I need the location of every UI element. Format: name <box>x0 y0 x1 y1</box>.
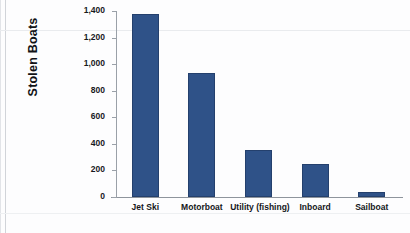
bar <box>245 150 272 197</box>
x-axis-line <box>111 197 403 198</box>
plot-area: 02004006008001,0001,2001,400 Jet SkiMoto… <box>117 11 400 197</box>
bar-group: Jet Ski <box>117 11 174 197</box>
y-tick: 0 <box>112 197 117 198</box>
x-axis-category-label: Jet Ski <box>117 202 174 212</box>
bar <box>302 164 329 197</box>
bar-group: Sailboat <box>343 11 400 197</box>
x-axis-category-label: Inboard <box>287 202 344 212</box>
x-axis-category-label: Motorboat <box>174 202 231 212</box>
bar <box>188 73 215 197</box>
x-axis-category-label: Utility (fishing) <box>230 202 287 212</box>
y-axis-title: Stolen Boats <box>26 0 40 142</box>
bar <box>132 14 159 197</box>
x-axis-category-label: Sailboat <box>343 202 400 212</box>
y-tick-label: 600 <box>91 111 105 121</box>
y-tick-label: 1,200 <box>84 32 105 42</box>
bar-series: Jet SkiMotorboatUtility (fishing)Inboard… <box>117 11 400 197</box>
bar-group: Utility (fishing) <box>230 11 287 197</box>
bar-chart-figure: Stolen Boats 02004006008001,0001,2001,40… <box>0 0 410 233</box>
bar-group: Motorboat <box>174 11 231 197</box>
scan-artifact-vertical-line <box>5 0 6 233</box>
scan-artifact-horizontal-line-bottom <box>0 213 410 214</box>
y-tick-label: 400 <box>91 138 105 148</box>
y-tick-label: 800 <box>91 85 105 95</box>
y-tick-label: 1,400 <box>84 5 105 15</box>
y-tick-label: 200 <box>91 164 105 174</box>
bar-group: Inboard <box>287 11 344 197</box>
scan-artifact-edge-line <box>0 0 1 233</box>
y-tick-label: 1,000 <box>84 58 105 68</box>
y-tick-label: 0 <box>100 191 105 201</box>
bar <box>358 192 385 197</box>
